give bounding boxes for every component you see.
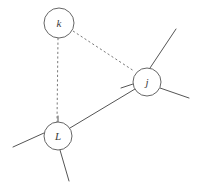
node-l[interactable]: L (44, 122, 72, 150)
node-l-label: L (54, 130, 61, 142)
node-k[interactable]: k (44, 8, 74, 38)
stub-j-up-right (150, 29, 176, 68)
edge-k-j (73, 31, 134, 71)
stub-j-down-right (160, 88, 189, 98)
stub-group (13, 29, 189, 181)
node-j[interactable]: j (133, 68, 161, 96)
graph-canvas: k j L (0, 0, 201, 184)
edge-group (57, 31, 135, 128)
edge-k-l (57, 38, 58, 122)
stub-l-left (13, 133, 44, 147)
edge-l-j (70, 89, 135, 128)
stub-l-down (60, 150, 69, 181)
graph-figure: k j L (0, 0, 201, 184)
stub-j-left (121, 84, 133, 88)
